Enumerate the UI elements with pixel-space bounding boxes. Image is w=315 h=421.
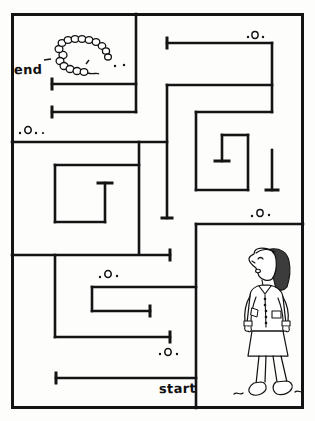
- pebble-dot: [176, 353, 178, 355]
- pebble-dot: [268, 214, 270, 216]
- caterpillar-segment: [64, 37, 72, 44]
- girl-mouth: [256, 269, 261, 272]
- pebble-ring: [105, 271, 111, 278]
- girl-button: [265, 322, 268, 325]
- pebble-dot: [116, 275, 118, 277]
- maze-drawing: [0, 0, 315, 421]
- girl-button: [265, 316, 268, 319]
- paper-background: [0, 0, 315, 421]
- caterpillar-tail: [88, 73, 99, 74]
- caterpillar-segment: [105, 54, 112, 60]
- ground-tick-left: [234, 393, 243, 394]
- end-label: end: [14, 62, 43, 78]
- pebble-ring: [25, 127, 31, 134]
- girl-pocket: [272, 311, 281, 318]
- girl-cuff-left: [244, 321, 252, 326]
- pebble-dot: [251, 215, 253, 217]
- girl-sleeve-detail: [251, 308, 258, 317]
- pebble-ring: [165, 349, 171, 356]
- pebble-dot: [123, 64, 125, 66]
- pebble-dot: [159, 353, 161, 355]
- caterpillar-segment: [102, 48, 109, 54]
- girl-button: [264, 298, 267, 301]
- start-label: start: [159, 381, 196, 397]
- pebble-dot: [35, 132, 37, 134]
- maze-puzzle: end start: [0, 0, 315, 421]
- girl-button: [264, 304, 267, 307]
- pebble-dot: [247, 36, 249, 38]
- pebble-dot: [42, 132, 44, 134]
- pebble-dot: [114, 65, 116, 67]
- pebble-ring: [257, 210, 263, 217]
- girl-skirt: [248, 331, 288, 356]
- pebble-dot: [262, 36, 264, 38]
- pebble-ring: [252, 32, 258, 39]
- pebble-dot: [99, 276, 101, 278]
- caterpillar-segment: [78, 36, 86, 43]
- caterpillar-antenna: [44, 59, 51, 60]
- girl-button: [265, 310, 268, 313]
- girl-cuff-right: [282, 321, 290, 326]
- caterpillar-segment: [80, 69, 88, 76]
- pebble-dot: [19, 132, 21, 134]
